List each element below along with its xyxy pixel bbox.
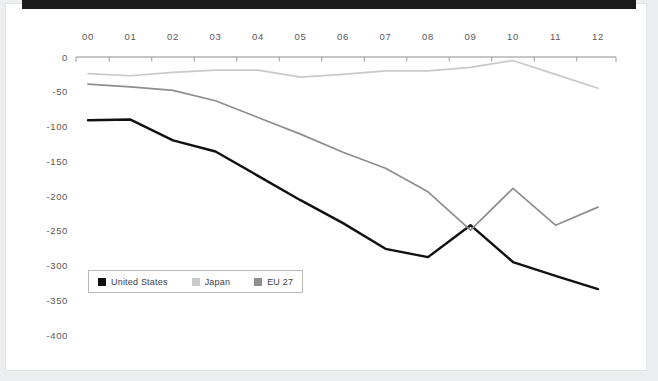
x-axis-tick-labels: 00010203040506070809101112	[82, 31, 604, 42]
series-line-japan	[88, 60, 598, 88]
legend-swatch-united-states	[98, 278, 106, 286]
x-tick-label: 06	[337, 31, 349, 42]
y-tick-label: -350	[47, 295, 68, 306]
x-tick-label: 04	[252, 31, 264, 42]
chart-svg: 0-50-100-150-200-250-300-350-400 0001020…	[0, 0, 658, 381]
y-tick-label: 0	[62, 52, 68, 63]
y-tick-label: -200	[47, 191, 68, 202]
x-tick-label: 12	[592, 31, 604, 42]
legend-swatch-eu-27	[254, 278, 262, 286]
y-axis-tick-labels: 0-50-100-150-200-250-300-350-400	[47, 52, 68, 341]
x-tick-label: 09	[465, 31, 477, 42]
y-tick-label: -100	[47, 121, 68, 132]
series-line-eu-27	[88, 84, 598, 230]
y-tick-label: -50	[52, 86, 68, 97]
x-tick-label: 11	[550, 31, 561, 42]
line-chart: 0-50-100-150-200-250-300-350-400 0001020…	[0, 0, 658, 381]
legend-item-eu-27[interactable]: EU 27	[254, 277, 293, 287]
legend-label-japan: Japan	[205, 277, 231, 287]
chart-page: 0-50-100-150-200-250-300-350-400 0001020…	[0, 0, 658, 381]
legend-label-united-states: United States	[111, 277, 168, 287]
x-tick-label: 05	[295, 31, 307, 42]
y-tick-label: -250	[47, 225, 68, 236]
x-tick-label: 00	[82, 31, 94, 42]
chart-legend[interactable]: United States Japan EU 27	[88, 270, 303, 293]
series-line-united-states	[88, 120, 598, 290]
x-tick-label: 07	[380, 31, 392, 42]
legend-swatch-japan	[192, 278, 200, 286]
x-tick-label: 10	[507, 31, 519, 42]
x-tick-label: 03	[210, 31, 222, 42]
y-tick-label: -400	[47, 330, 68, 341]
y-tick-label: -300	[47, 260, 68, 271]
x-tick-label: 08	[422, 31, 434, 42]
series-lines	[88, 60, 598, 289]
legend-item-united-states[interactable]: United States	[98, 277, 168, 287]
x-tick-label: 01	[125, 31, 137, 42]
x-tick-label: 02	[167, 31, 179, 42]
legend-label-eu-27: EU 27	[267, 277, 293, 287]
x-axis	[76, 57, 616, 62]
legend-item-japan[interactable]: Japan	[192, 277, 231, 287]
y-tick-label: -150	[47, 156, 68, 167]
